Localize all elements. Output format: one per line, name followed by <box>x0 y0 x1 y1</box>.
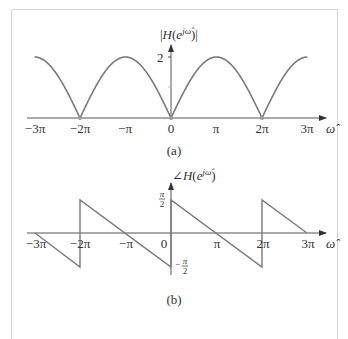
x-tick-labels: −3π −2π −π 0 π 2π 3π <box>25 121 314 136</box>
svg-text:−: − <box>175 259 180 269</box>
svg-text:π: π <box>213 121 220 136</box>
svg-text:2: 2 <box>160 199 165 209</box>
svg-text:−π: −π <box>118 121 132 136</box>
panel-b-phase: ∠H(ejω̂) π 2 − π 2 −3π −2π −π 0 π 2π 3π … <box>26 167 340 307</box>
svg-text:−2π: −2π <box>70 121 91 136</box>
ytick-2: 2 <box>157 50 164 65</box>
caption-b: (b) <box>166 292 181 307</box>
svg-text:π: π <box>214 236 221 251</box>
x-axis-label: ω̂ <box>326 236 340 251</box>
panel-a-magnitude: |H(ejω̂)| 2 −3π −2π −π 0 π 2π 3π ω̂ (a) <box>25 26 340 158</box>
y-axis-label: ∠H(ejω̂) <box>172 167 216 183</box>
svg-text:π: π <box>160 189 165 199</box>
x-axis-label: ω̂ <box>326 121 340 136</box>
svg-text:−2π: −2π <box>70 236 91 251</box>
svg-text:π: π <box>183 256 188 266</box>
svg-text:−π: −π <box>119 236 133 251</box>
svg-text:2: 2 <box>183 266 188 276</box>
svg-text:3π: 3π <box>301 236 315 251</box>
caption-a: (a) <box>167 143 181 158</box>
svg-text:0: 0 <box>168 121 175 136</box>
svg-text:2π: 2π <box>256 236 270 251</box>
svg-text:3π: 3π <box>300 121 314 136</box>
svg-text:2π: 2π <box>255 121 269 136</box>
y-axis-label: |H(ejω̂)| <box>160 26 198 42</box>
ytick-pi-over-2: π 2 <box>159 189 165 209</box>
ytick-neg-pi-over-2: − π 2 <box>175 256 188 276</box>
svg-text:0: 0 <box>161 236 168 251</box>
svg-text:−3π: −3π <box>25 121 46 136</box>
svg-text:−3π: −3π <box>26 236 47 251</box>
